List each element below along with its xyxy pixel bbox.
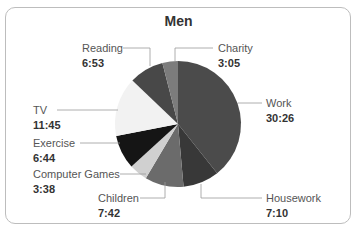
leader-line-housework [201, 184, 262, 198]
leader-line-reading [123, 48, 150, 66]
label-housework: Housework 7:10 [266, 192, 321, 220]
label-work: Work 30:26 [266, 97, 294, 125]
label-children: Children 7:42 [98, 192, 139, 220]
label-tv: TV 11:45 [33, 104, 61, 132]
label-exercise: Exercise 6:44 [33, 137, 75, 165]
label-charity: Charity 3:05 [218, 42, 253, 70]
label-computer-games: Computer Games 3:38 [33, 168, 120, 196]
pie-slices [115, 61, 241, 187]
leader-line-charity [175, 48, 213, 61]
label-reading: Reading 6:53 [82, 42, 123, 70]
